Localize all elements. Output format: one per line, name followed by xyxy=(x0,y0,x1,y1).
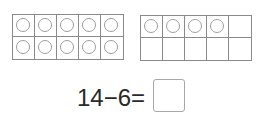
counter-circle-icon xyxy=(82,40,96,54)
frame-cell xyxy=(57,37,79,59)
counter-circle-icon xyxy=(82,18,96,32)
counter-circle-icon xyxy=(104,40,118,54)
ten-frame-1 xyxy=(12,14,124,60)
frame-cell xyxy=(207,16,229,38)
counter-circle-icon xyxy=(144,19,158,33)
ten-frame-2 xyxy=(140,15,252,61)
answer-input-box[interactable] xyxy=(153,79,185,112)
counter-circle-icon xyxy=(166,19,180,33)
counter-circle-icon xyxy=(60,18,74,32)
equation-text: 14−6= xyxy=(77,84,145,112)
counter-circle-icon xyxy=(188,19,202,33)
frame-cell xyxy=(141,16,163,38)
frame-cell xyxy=(185,16,207,38)
frame-cell xyxy=(35,37,57,59)
frame-cell xyxy=(229,38,251,60)
frame-cell xyxy=(57,15,79,37)
counter-circle-icon xyxy=(16,40,30,54)
frame-cell xyxy=(141,38,163,60)
counter-circle-icon xyxy=(38,18,52,32)
frame-cell xyxy=(229,16,251,38)
frame-cell xyxy=(79,37,101,59)
frame-cell xyxy=(13,15,35,37)
frame-cell xyxy=(13,37,35,59)
frame-cell xyxy=(163,38,185,60)
frame-cell xyxy=(35,15,57,37)
counter-circle-icon xyxy=(16,18,30,32)
frame-cell xyxy=(101,37,123,59)
frame-cell xyxy=(207,38,229,60)
counter-circle-icon xyxy=(38,40,52,54)
frame-cell xyxy=(79,15,101,37)
frame-cell xyxy=(101,15,123,37)
frame-cell xyxy=(163,16,185,38)
counter-circle-icon xyxy=(210,19,224,33)
counter-circle-icon xyxy=(60,40,74,54)
frame-cell xyxy=(185,38,207,60)
counter-circle-icon xyxy=(104,18,118,32)
